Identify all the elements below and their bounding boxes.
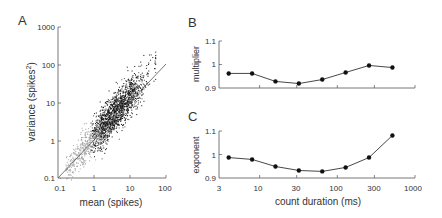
tick-label: 100 <box>329 184 343 193</box>
tick-label: 1.1 <box>205 37 217 46</box>
tick-label: 10 <box>254 184 263 193</box>
panel-b: B multiplier 1.1 1 0.9 <box>188 15 415 93</box>
y-axis-label-a: variance (spikes2) <box>25 62 37 142</box>
tick-label: 1 <box>92 184 97 193</box>
data-point <box>273 164 277 168</box>
tick-label: 0.1 <box>44 174 56 183</box>
data-point <box>297 81 301 85</box>
tick-label: 1000 <box>37 23 55 32</box>
data-point <box>390 65 394 69</box>
panel-label-c: C <box>188 109 197 124</box>
tick-marks-a <box>58 27 166 178</box>
tick-label: 0.1 <box>54 184 66 193</box>
tick-label: 0.9 <box>205 84 217 93</box>
panel-label-a: A <box>18 13 27 28</box>
x-axis-label-a: mean (spikes) <box>80 197 143 208</box>
panel-c: C exponent 1.1 1 0.9 3 10 30 100 300 100… <box>188 109 422 207</box>
y-ticks-a: 1000 100 10 1 0.1 <box>37 23 55 183</box>
tick-label: 0.9 <box>205 174 217 183</box>
tick-label: 1 <box>212 60 217 69</box>
tick-label: 1 <box>51 137 56 146</box>
tick-label: 3 <box>217 184 222 193</box>
tick-label: 1.1 <box>205 127 217 136</box>
y-ticks-c: 1.1 1 0.9 <box>205 127 217 183</box>
y-ticks-b: 1.1 1 0.9 <box>205 37 217 93</box>
tick-label: 10 <box>46 99 55 108</box>
data-point <box>297 168 301 172</box>
data-point <box>367 155 371 159</box>
tick-label: 10 <box>126 184 135 193</box>
unity-line <box>58 64 166 178</box>
data-point <box>227 155 231 159</box>
exponent-series <box>227 133 395 173</box>
figure: A 1000 100 10 1 0.1 0.1 1 10 100 mean (s… <box>0 0 442 218</box>
data-point <box>343 70 347 74</box>
tick-label: 300 <box>367 184 381 193</box>
multiplier-series <box>227 63 395 85</box>
tick-marks-b <box>219 41 415 88</box>
y-axis-label-c: exponent <box>191 136 201 174</box>
tick-label: 1000 <box>404 184 422 193</box>
tick-label: 1 <box>212 151 217 160</box>
tick-label: 100 <box>158 184 172 193</box>
panel-a: A 1000 100 10 1 0.1 0.1 1 10 100 mean (s… <box>18 13 172 208</box>
data-point <box>320 77 324 81</box>
data-point <box>227 71 231 75</box>
data-point <box>250 157 254 161</box>
data-point <box>320 169 324 173</box>
x-ticks-c: 3 10 30 100 300 1000 <box>217 184 423 193</box>
data-point <box>390 133 394 137</box>
x-ticks-a: 0.1 1 10 100 <box>54 184 172 193</box>
tick-label: 30 <box>292 184 301 193</box>
panel-label-b: B <box>188 15 197 30</box>
data-point <box>273 79 277 83</box>
data-point <box>250 71 254 75</box>
data-point <box>343 165 347 169</box>
tick-label: 100 <box>42 61 56 70</box>
data-point <box>367 63 371 67</box>
x-axis-label-c: count duration (ms) <box>275 196 361 207</box>
y-axis-label-b: multiplier <box>191 46 201 82</box>
